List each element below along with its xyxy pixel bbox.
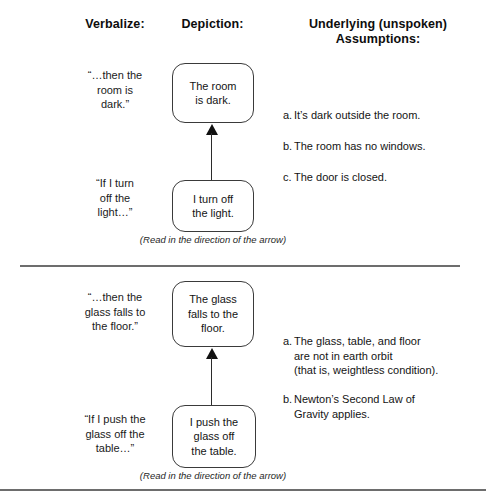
assumption-marker: a. xyxy=(283,108,292,123)
assumption-item: b. The room has no windows. xyxy=(283,139,483,154)
arrow-shaft xyxy=(211,357,212,410)
depiction-box-push-glass: I push the glass off the table. xyxy=(172,405,256,468)
depiction-box-glass-falls: The glass falls to the floor. xyxy=(172,281,254,347)
assumption-item: a. The glass, table, and floor are not i… xyxy=(283,334,483,378)
assumption-item: b. Newton’s Second Law of Gravity applie… xyxy=(283,392,483,421)
arrow-up-glass xyxy=(204,348,220,410)
depiction-box-room-is-dark: The room is dark. xyxy=(172,63,254,123)
assumption-item: a. It’s dark outside the room. xyxy=(283,108,483,123)
depiction-box-turn-off-light: I turn off the light. xyxy=(172,180,254,232)
caption-read-direction-light: (Read in the direction of the arrow) xyxy=(83,234,343,246)
assumption-text: Newton’s Second Law of Gravity applies. xyxy=(283,392,483,421)
assumption-text: The room has no windows. xyxy=(283,139,483,154)
column-header-assumptions: Underlying (unspoken) Assumptions: xyxy=(273,17,483,47)
panel-divider-bottom xyxy=(0,489,486,491)
caption-read-direction-glass: (Read in the direction of the arrow) xyxy=(83,470,343,482)
column-header-depiction: Depiction: xyxy=(155,17,270,32)
diagram-canvas: Verbalize: Depiction: Underlying (unspok… xyxy=(0,0,486,495)
assumption-marker: b. xyxy=(283,139,292,154)
arrow-up-light xyxy=(204,124,220,180)
assumption-text: It’s dark outside the room. xyxy=(283,108,483,123)
assumption-marker: c. xyxy=(283,170,292,185)
assumption-text: The glass, table, and floor are not in e… xyxy=(283,334,483,378)
panel-divider-top xyxy=(20,265,460,267)
verbalize-text-glass-top: “…then the glass falls to the floor.” xyxy=(55,290,175,334)
assumption-text: The door is closed. xyxy=(283,170,483,185)
arrow-shaft xyxy=(211,133,212,180)
verbalize-text-glass-bottom: “If I push the glass off the table…” xyxy=(55,412,175,456)
verbalize-text-light-top: “…then the room is dark.” xyxy=(55,68,175,112)
verbalize-text-light-bottom: “If I turn off the light…” xyxy=(55,176,175,220)
assumption-item: c. The door is closed. xyxy=(283,170,483,185)
assumption-marker: a. xyxy=(283,334,292,349)
assumption-marker: b. xyxy=(283,392,292,407)
